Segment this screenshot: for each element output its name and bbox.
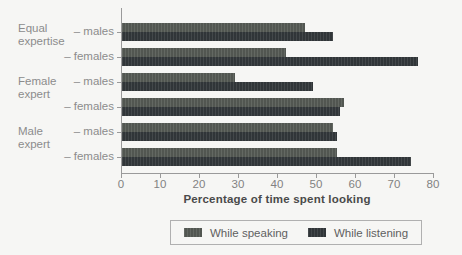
x-axis-tick-label: 20 (193, 178, 206, 190)
legend: While speaking While listening (170, 220, 422, 245)
group-label-line: expertise (18, 35, 65, 48)
group-label-line: Male (18, 125, 50, 138)
legend-item-while-speaking: While speaking (184, 227, 288, 239)
group-label: Equalexpertise (18, 22, 65, 48)
x-axis-tick-label: 10 (154, 178, 167, 190)
group-label-line: Equal (18, 22, 65, 35)
bar-while-listening (122, 132, 337, 141)
group-label-line: Female (18, 75, 56, 88)
x-axis-tick-label: 0 (118, 178, 124, 190)
group-label: Maleexpert (18, 125, 50, 151)
bar-while-speaking (122, 98, 344, 107)
while-listening-swatch-icon (308, 228, 326, 237)
category-label: – females (30, 150, 114, 163)
category-label: – females (30, 50, 114, 63)
group-label: Femaleexpert (18, 75, 56, 101)
x-axis-tick-label: 50 (310, 178, 323, 190)
bar-while-speaking (122, 73, 235, 82)
bar-while-listening (122, 157, 411, 166)
bar-chart-figure: Percentage of time spent looking While s… (0, 0, 462, 255)
bar-while-speaking (122, 48, 286, 57)
legend-label-while-listening: While listening (334, 227, 408, 239)
x-axis-tick-label: 60 (349, 178, 362, 190)
bar-while-speaking (122, 123, 333, 132)
group-label-line: expert (18, 88, 56, 101)
x-axis-tick-label: 30 (232, 178, 245, 190)
x-axis-title: Percentage of time spent looking (121, 193, 433, 205)
bar-while-listening (122, 32, 333, 41)
bar-while-speaking (122, 148, 337, 157)
y-axis-row-tick (117, 157, 121, 158)
y-axis-row-tick (117, 57, 121, 58)
y-axis-row-tick (117, 82, 121, 83)
category-label: – females (30, 100, 114, 113)
legend-item-while-listening: While listening (308, 227, 408, 239)
bar-while-listening (122, 82, 313, 91)
bar-while-listening (122, 57, 418, 66)
while-speaking-swatch-icon (184, 228, 202, 237)
x-axis-tick-label: 40 (271, 178, 284, 190)
y-axis-row-tick (117, 32, 121, 33)
x-axis-tick-label: 80 (427, 178, 440, 190)
y-axis-row-tick (117, 107, 121, 108)
bar-while-speaking (122, 23, 305, 32)
group-label-line: expert (18, 138, 50, 151)
bar-while-listening (122, 107, 340, 116)
y-axis-row-tick (117, 132, 121, 133)
x-axis-tick-label: 70 (388, 178, 401, 190)
legend-label-while-speaking: While speaking (210, 227, 288, 239)
